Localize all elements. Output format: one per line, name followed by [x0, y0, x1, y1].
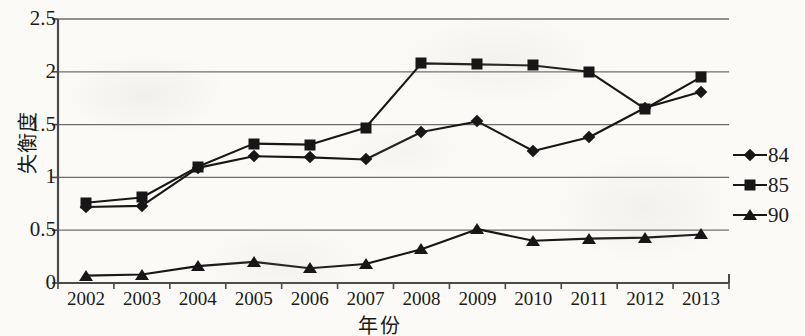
legend-label: 84	[768, 145, 789, 166]
x-tick-label: 2009	[458, 289, 496, 308]
x-tick-label: 2011	[571, 289, 608, 308]
legend-marker-diamond-icon	[733, 146, 767, 164]
legend-marker-square-icon	[733, 176, 767, 194]
x-tick-label: 2010	[514, 289, 552, 308]
chart-legend: 848590	[733, 140, 803, 230]
x-tick-label: 2013	[682, 289, 720, 308]
legend-item-90[interactable]: 90	[733, 200, 803, 230]
x-tick-label: 2007	[347, 289, 385, 308]
x-axis-tick-labels: 2002200320042005200620072008200920102011…	[0, 0, 805, 336]
x-tick-label: 2004	[179, 289, 217, 308]
x-axis-title: 年份	[0, 310, 760, 336]
legend-label: 90	[768, 205, 789, 226]
x-tick-label: 2005	[235, 289, 273, 308]
legend-marker-triangle-icon	[733, 206, 767, 224]
chart-container: 00.511.522.5 失衡度 20022003200420052006200…	[0, 0, 805, 336]
x-tick-label: 2003	[123, 289, 161, 308]
x-tick-label: 2008	[402, 289, 440, 308]
legend-item-85[interactable]: 85	[733, 170, 803, 200]
legend-label: 85	[768, 175, 789, 196]
legend-item-84[interactable]: 84	[733, 140, 803, 170]
x-tick-label: 2012	[626, 289, 664, 308]
x-tick-label: 2002	[67, 289, 105, 308]
x-tick-label: 2006	[291, 289, 329, 308]
